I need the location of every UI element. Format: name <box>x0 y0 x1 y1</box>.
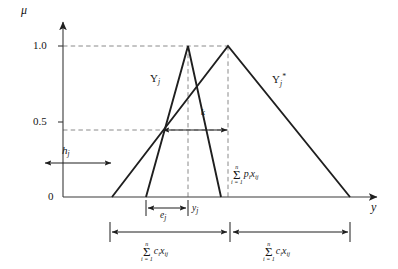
y-axis-ticks <box>58 46 63 122</box>
diagram-svg <box>0 0 398 269</box>
dashed-guides <box>63 46 228 197</box>
curve-label-Yj-star-sup: * <box>282 72 286 81</box>
annotation-label-ej: ej <box>160 211 166 222</box>
sum-p-lower-limit: i = 1 <box>231 179 243 185</box>
curve-label-Yj: Yj <box>150 73 160 86</box>
annotation-sum-c-left: n Σ i = 1 cixij <box>141 240 168 261</box>
sum-p-expression: pixij <box>244 168 259 179</box>
sum-c-left-expression: cixij <box>154 245 168 256</box>
x-axis-label: y <box>371 201 376 213</box>
sum-c-right-var-sub: ij <box>286 250 290 257</box>
curve-label-Yj-sub: j <box>158 77 160 86</box>
curve-label-Yj-base: Y <box>150 73 158 84</box>
sum-p-var-sub: ij <box>255 173 259 180</box>
annotation-sum-p: n Σ i = 1 pixij <box>231 163 259 184</box>
sum-c-left-var-sub: ij <box>164 250 168 257</box>
y-tick-label-0.5: 0.5 <box>33 116 47 127</box>
y-tick-label-0: 0 <box>48 191 54 202</box>
sum-c-left-sigma-block: n Σ i = 1 <box>141 241 153 262</box>
curve-label-Yj-star: Yj* <box>272 73 286 87</box>
y-axis-label: μ <box>21 4 27 16</box>
figure-canvas: μ y 1.0 0.5 0 Yj Yj* hj k ej yj n Σ i = … <box>0 0 398 269</box>
annotation-label-yj: yj <box>192 204 198 215</box>
yj-sub: j <box>196 206 198 215</box>
curve-label-Yj-star-base: Y <box>272 74 280 85</box>
hj-sub: j <box>68 149 70 158</box>
annotation-sum-c-right: n Σ i = 1 cixij <box>263 240 290 261</box>
ej-sub: j <box>164 213 166 222</box>
annotation-ej <box>146 200 188 216</box>
annotation-label-hj: hj <box>62 145 70 158</box>
sum-c-right-sigma-block: n Σ i = 1 <box>263 241 275 262</box>
y-tick-label-1.0: 1.0 <box>33 40 47 51</box>
sum-c-right-lower-limit: i = 1 <box>263 256 275 262</box>
sum-p-sigma-block: n Σ i = 1 <box>231 164 243 185</box>
sum-c-right-expression: cixij <box>276 245 290 256</box>
sum-c-left-lower-limit: i = 1 <box>141 256 153 262</box>
annotation-label-k: k <box>201 108 205 117</box>
annotation-sums <box>110 222 350 242</box>
